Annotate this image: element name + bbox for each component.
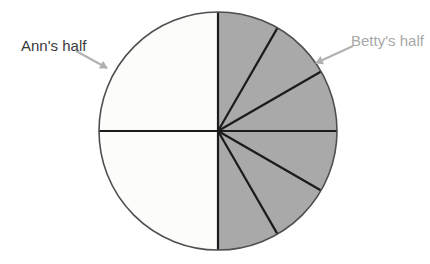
pie-slice	[99, 12, 218, 131]
pie-slice	[99, 131, 218, 250]
betty-half-label: Betty's half	[351, 33, 424, 50]
figure-canvas: Ann's half Betty's half	[0, 0, 430, 264]
ann-half-label: Ann's half	[21, 38, 86, 55]
betty-arrow-icon	[316, 46, 353, 63]
